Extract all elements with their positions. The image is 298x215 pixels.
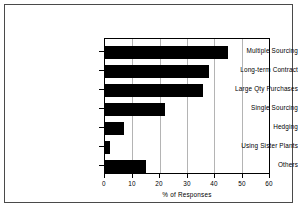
ytick-mark (99, 108, 104, 109)
xtick-label-0: 0 (92, 180, 116, 188)
xtick-label-50: 50 (230, 180, 254, 188)
ytick-mark (99, 165, 104, 166)
xtick-label-10: 10 (120, 180, 144, 188)
x-axis-title: % of Responses (104, 191, 270, 198)
xtick-label-30: 30 (175, 180, 199, 188)
ytick-mark (99, 51, 104, 52)
ytick-mark (99, 89, 104, 90)
bar-chart: Multiple Sourcing Long-term Contract Lar… (0, 0, 298, 215)
bar-large-qty-purchases (105, 84, 203, 97)
ytick-label-large-qty-purchases: Large Qty Purchases (206, 85, 298, 93)
ytick-mark (99, 70, 104, 71)
xtick-mark (214, 174, 215, 178)
ytick-label-others: Others (206, 161, 298, 169)
bar-using-sister-plants (105, 141, 110, 154)
ytick-label-using-sister-plants: Using Sister Plants (206, 142, 298, 150)
xtick-mark (269, 174, 270, 178)
xtick-mark (187, 174, 188, 178)
figure: Multiple Sourcing Long-term Contract Lar… (0, 0, 298, 215)
bar-others (105, 160, 146, 173)
ytick-mark (99, 146, 104, 147)
xtick-mark (242, 174, 243, 178)
gridline-30 (187, 39, 188, 173)
xtick-label-60: 60 (257, 180, 281, 188)
bar-single-sourcing (105, 103, 165, 116)
ytick-label-long-term-contract: Long-term Contract (206, 66, 298, 74)
ytick-label-hedging: Hedging (206, 123, 298, 131)
xtick-mark (132, 174, 133, 178)
bar-hedging (105, 122, 124, 135)
bar-long-term-contract (105, 65, 209, 78)
ytick-label-multiple-sourcing: Multiple Sourcing (206, 47, 298, 55)
ytick-mark (99, 127, 104, 128)
xtick-label-20: 20 (147, 180, 171, 188)
xtick-mark (104, 174, 105, 178)
ytick-label-single-sourcing: Single Sourcing (206, 104, 298, 112)
xtick-label-40: 40 (202, 180, 226, 188)
xtick-mark (159, 174, 160, 178)
